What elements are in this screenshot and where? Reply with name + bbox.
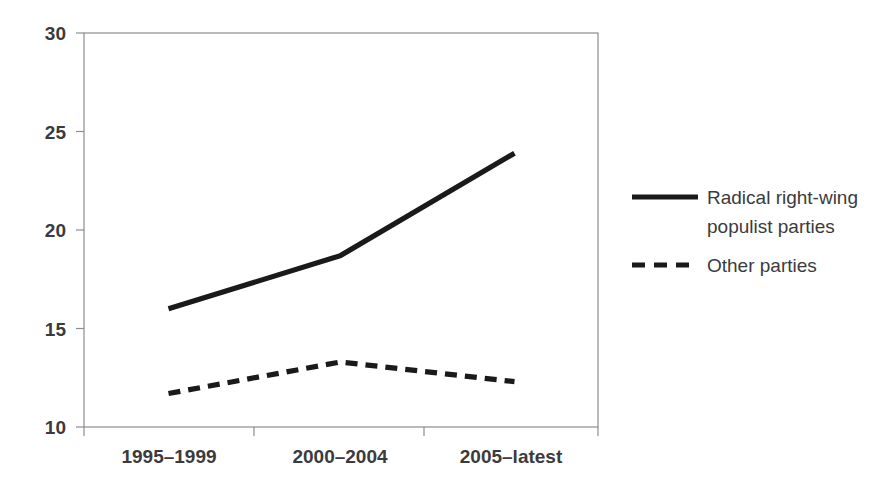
line-chart: 30 25 20 15 10 1995–1999 2000–2004 2005–… [0, 0, 887, 497]
y-tick-label-20: 20 [45, 220, 66, 241]
series-radical-right-wing-populist-parties [169, 153, 515, 309]
y-tick-label-10: 10 [45, 417, 66, 438]
x-tick-label-2: 2000–2004 [292, 446, 388, 467]
y-axis-ticks [76, 33, 84, 427]
x-tick-label-1: 1995–1999 [121, 446, 216, 467]
x-axis-ticks [84, 427, 598, 436]
y-tick-label-15: 15 [45, 319, 67, 340]
plot-frame [84, 33, 598, 427]
legend-label-radical-line1: Radical right-wing [707, 187, 858, 208]
series-other-parties [169, 362, 515, 394]
legend-label-radical-line2: populist parties [707, 216, 835, 237]
legend: Radical right-wing populist parties Othe… [632, 187, 858, 276]
y-tick-label-25: 25 [45, 122, 67, 143]
y-axis-labels: 30 25 20 15 10 [45, 23, 67, 438]
data-series-group [169, 153, 515, 393]
x-axis-labels: 1995–1999 2000–2004 2005–latest [121, 446, 562, 467]
y-tick-label-30: 30 [45, 23, 66, 44]
x-tick-label-3: 2005–latest [460, 446, 563, 467]
legend-label-other-parties: Other parties [707, 255, 817, 276]
